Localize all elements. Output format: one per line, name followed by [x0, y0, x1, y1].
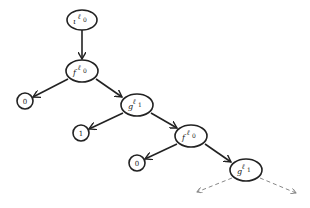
node-label-sub: 1: [138, 101, 142, 108]
edge-g-to-f2: [151, 113, 177, 128]
node-label-base: ι: [73, 17, 76, 26]
node-label-sup: ℓ: [186, 129, 190, 137]
leaf-label: 1: [79, 130, 83, 138]
node-g-level2: g ℓ 1: [121, 94, 153, 116]
leaf-label: 0: [23, 98, 27, 106]
node-root: ι ℓ 0: [67, 10, 97, 30]
node-f-level1: f ℓ 0: [66, 60, 98, 82]
dashed-edge-left: [197, 178, 232, 192]
edge-f-to-0: [33, 79, 68, 97]
diagram-canvas: ι ℓ 0 f ℓ 0 0 g ℓ 1 1 f ℓ 0 0 g ℓ 1: [0, 0, 310, 208]
node-label-sub: 0: [192, 132, 196, 139]
node-label-sub: 0: [83, 16, 87, 23]
node-label-sup: ℓ: [241, 163, 245, 171]
node-label-sup: ℓ: [77, 64, 81, 72]
edge-g-to-1: [89, 113, 123, 129]
node-f-level3: f ℓ 0: [175, 125, 207, 147]
dashed-edge-right: [260, 178, 296, 193]
leaf-1: 1: [73, 125, 89, 141]
edge-f-to-g: [96, 79, 122, 97]
leaf-0-second: 0: [129, 155, 145, 171]
edge-f2-to-0: [145, 144, 177, 159]
node-label-sup: ℓ: [132, 98, 136, 106]
node-label-sub: 0: [83, 67, 87, 74]
edge-f2-to-g2: [205, 144, 231, 162]
tree-diagram: ι ℓ 0 f ℓ 0 0 g ℓ 1 1 f ℓ 0 0 g ℓ 1: [0, 0, 310, 208]
node-label-sup: ℓ: [77, 13, 81, 21]
leaf-label: 0: [135, 160, 139, 168]
node-label-sub: 1: [247, 166, 251, 173]
node-g-level4: g ℓ 1: [230, 159, 262, 181]
leaf-0-first: 0: [17, 93, 33, 109]
